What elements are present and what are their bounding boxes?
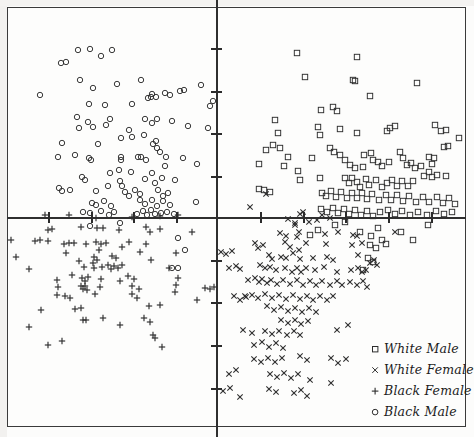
data-point-plus (66, 212, 72, 218)
data-point-square (263, 147, 268, 152)
legend-entry-white-male[interactable]: White Male (368, 338, 468, 359)
data-point-cross-x (231, 293, 236, 298)
data-point-cross-x (297, 211, 302, 216)
data-point-square (317, 175, 322, 180)
data-point-square (367, 242, 372, 247)
legend-entry-black-female[interactable]: Black Female (368, 380, 468, 401)
data-point-circle (143, 157, 148, 162)
data-point-square (399, 208, 404, 213)
data-point-circle (198, 82, 203, 87)
data-point-cross-x (278, 304, 283, 309)
data-point-plus (26, 266, 32, 272)
data-point-circle (172, 177, 177, 182)
data-point-cross-x (278, 317, 283, 322)
data-point-cross-x (283, 233, 288, 238)
data-point-cross-x (276, 328, 281, 333)
data-point-circle (164, 209, 169, 214)
data-point-cross-x (255, 295, 260, 300)
data-point-circle (169, 118, 174, 123)
data-point-cross-x (285, 308, 290, 313)
data-point-circle (59, 140, 64, 145)
data-point-circle (106, 212, 111, 217)
data-point-cross-x (273, 389, 278, 394)
data-point-square (324, 209, 329, 214)
data-point-cross-x (285, 216, 290, 221)
data-point-cross-x (335, 229, 340, 234)
data-point-cross-x (304, 357, 309, 362)
legend-label-black-male: Black Male (384, 404, 457, 419)
data-point-cross-x (255, 245, 260, 250)
data-point-square (379, 163, 384, 168)
data-point-square (309, 155, 314, 160)
data-point-cross-x (285, 320, 290, 325)
data-point-square (425, 222, 430, 227)
data-point-plus (143, 224, 149, 230)
data-point-plus (72, 306, 78, 312)
data-point-circle (101, 198, 106, 203)
data-point-circle (167, 92, 172, 97)
data-point-plus (90, 260, 96, 266)
data-point-circle (134, 211, 139, 216)
data-point-square (441, 211, 446, 216)
legend: White Male White Female Black Female Bla… (368, 338, 468, 422)
data-point-circle (79, 174, 84, 179)
data-point-square (376, 197, 381, 202)
data-point-square (330, 104, 335, 109)
data-point-plus (8, 237, 14, 243)
data-point-square (334, 108, 339, 113)
data-point-cross-x (276, 292, 281, 297)
data-point-cross-x (281, 370, 286, 375)
data-point-square (456, 135, 461, 140)
data-point-cross-x (304, 393, 309, 398)
data-point-cross-x (288, 375, 293, 380)
data-point-square (295, 168, 300, 173)
legend-label-white-male: White Male (384, 341, 459, 356)
data-point-cross-x (237, 394, 242, 399)
data-point-cross-x (263, 191, 268, 196)
data-point-square (424, 212, 429, 217)
data-point-circle (108, 203, 113, 208)
data-point-cross-x (313, 309, 318, 314)
legend-entry-white-female[interactable]: White Female (368, 359, 468, 380)
data-point-cross-x (291, 328, 296, 333)
data-point-plus (79, 275, 85, 281)
data-point-circle (175, 265, 180, 270)
data-point-cross-x (284, 332, 289, 337)
data-point-cross-x (295, 371, 300, 376)
data-point-cross-x (226, 371, 231, 376)
data-point-cross-x (334, 327, 339, 332)
data-point-square (370, 213, 375, 218)
data-point-square (397, 149, 402, 154)
data-point-plus (143, 241, 149, 247)
data-point-circle (90, 124, 95, 129)
data-point-cross-x (290, 292, 295, 297)
data-point-circle (85, 119, 90, 124)
data-point-cross-x (297, 296, 302, 301)
data-point-plus (94, 225, 100, 231)
data-point-square (337, 126, 342, 131)
data-point-cross-x (220, 388, 225, 393)
data-point-cross-x (298, 269, 303, 274)
data-point-plus (119, 244, 125, 250)
data-point-plus (93, 215, 99, 221)
data-point-cross-x (287, 244, 292, 249)
data-point-cross-x (262, 291, 267, 296)
data-point-square (383, 241, 388, 246)
data-point-cross-x (283, 255, 288, 260)
legend-entry-black-male[interactable]: Black Male (368, 401, 468, 422)
data-point-square (363, 176, 368, 181)
data-point-cross-x (364, 284, 369, 289)
data-point-plus (49, 226, 55, 232)
data-point-cross-x (277, 230, 282, 235)
data-point-plus (94, 257, 100, 263)
data-point-cross-x (249, 330, 254, 335)
data-point-circle (102, 102, 107, 107)
data-point-plus (63, 250, 69, 256)
data-point-plus (125, 273, 131, 279)
data-point-square (420, 194, 425, 199)
data-point-cross-x (273, 340, 278, 345)
data-point-cross-x (262, 328, 267, 333)
data-point-cross-x (354, 282, 359, 287)
data-point-circle (67, 187, 72, 192)
data-point-plus (81, 264, 87, 270)
